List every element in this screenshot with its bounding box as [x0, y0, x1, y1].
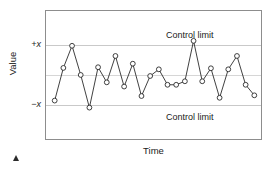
data-point — [148, 74, 153, 79]
data-point — [217, 95, 222, 100]
data-point — [130, 61, 135, 66]
plot-inner: Control limit Control limit — [46, 11, 261, 139]
data-point — [243, 82, 248, 87]
data-point — [96, 65, 101, 70]
y-tick-bottom: −x — [19, 99, 41, 110]
y-tick-top-label: +x — [19, 39, 41, 49]
data-point — [78, 73, 83, 78]
data-point — [191, 38, 196, 43]
data-point — [139, 94, 144, 99]
data-point — [226, 67, 231, 72]
caret-marker-icon — [13, 155, 19, 161]
data-point — [87, 105, 92, 110]
data-point — [104, 80, 109, 85]
data-point — [235, 54, 240, 59]
y-tick-bottom-label: −x — [19, 99, 41, 109]
series-line — [55, 41, 255, 108]
data-point — [182, 79, 187, 84]
data-point — [200, 79, 205, 84]
data-point — [252, 93, 257, 98]
data-point — [113, 54, 118, 59]
data-point — [61, 66, 66, 71]
plot-area: Control limit Control limit — [45, 10, 262, 140]
data-point — [52, 98, 57, 103]
data-point — [209, 66, 214, 71]
y-tick-top: +x — [19, 39, 41, 50]
data-point — [165, 82, 170, 87]
y-axis-title: Value — [7, 38, 18, 90]
data-point — [70, 43, 75, 48]
data-point — [122, 84, 127, 89]
data-point — [174, 82, 179, 87]
x-axis-title: Time — [45, 145, 262, 156]
series-markers — [52, 38, 256, 110]
data-point — [156, 67, 161, 72]
control-chart-figure: Value +x −x Control limit Control limit … — [0, 0, 276, 169]
series-plot — [46, 11, 261, 139]
